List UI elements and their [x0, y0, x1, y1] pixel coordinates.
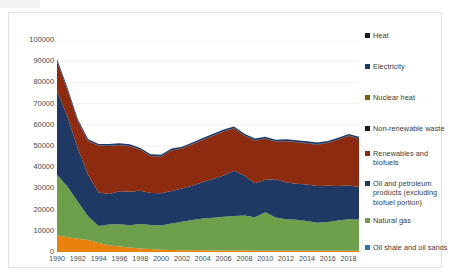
y-tick-label: 30000: [12, 184, 54, 192]
legend-label: Electricity: [373, 62, 405, 71]
y-tick-label: 10000: [12, 227, 54, 235]
y-tick-label: 90000: [12, 57, 54, 65]
x-tick-label: 2004: [195, 254, 211, 263]
x-tick-label: 2016: [320, 254, 336, 263]
y-tick-label: 100000: [12, 36, 54, 44]
chart-legend: HeatElectricityNuclear heatNon-renewable…: [365, 31, 450, 280]
x-tick-label: 2010: [257, 254, 273, 263]
chart-frame: 0100002000030000400005000060000700008000…: [8, 12, 442, 268]
legend-label: Natural gas: [373, 216, 411, 225]
legend-swatch-icon: [365, 218, 370, 223]
legend-label: Non-renewable waste: [373, 124, 445, 133]
y-tick-label: 80000: [12, 78, 54, 86]
legend-item[interactable]: Natural gas: [365, 216, 450, 225]
legend-label: Heat: [373, 31, 389, 40]
y-tick-label: 50000: [12, 142, 54, 150]
x-tick-label: 2006: [216, 254, 232, 263]
x-tick-label: 2002: [174, 254, 190, 263]
area-series: [57, 62, 359, 194]
legend-item[interactable]: Oil shale and oil sands: [365, 243, 450, 252]
x-tick-label: 2008: [236, 254, 252, 263]
legend-item[interactable]: Non-renewable waste: [365, 124, 450, 133]
legend-swatch-icon: [365, 151, 370, 156]
legend-label: Renewables and biofuels: [373, 149, 450, 168]
legend-item[interactable]: Oil and petroleum products (excluding bi…: [365, 179, 450, 207]
legend-item[interactable]: Renewables and biofuels: [365, 149, 450, 168]
corner-artifact: [0, 0, 40, 8]
y-tick-label: 0: [12, 248, 54, 256]
legend-swatch-icon: [365, 95, 370, 100]
y-tick-label: 70000: [12, 100, 54, 108]
legend-label: Oil and petroleum products (excluding bi…: [373, 179, 450, 207]
x-tick-label: 2012: [278, 254, 294, 263]
y-axis: 0100002000030000400005000060000700008000…: [9, 40, 54, 252]
legend-item[interactable]: Electricity: [365, 62, 450, 71]
legend-swatch-icon: [365, 64, 370, 69]
x-axis: 1990199219941996199820002002200420062008…: [57, 254, 359, 268]
legend-swatch-icon: [365, 126, 370, 131]
legend-swatch-icon: [365, 33, 370, 38]
legend-item[interactable]: Heat: [365, 31, 450, 40]
area-series-group: [57, 59, 359, 252]
legend-item[interactable]: Nuclear heat: [365, 93, 450, 102]
x-tick-label: 2014: [299, 254, 315, 263]
legend-label: Oil shale and oil sands: [373, 243, 448, 252]
x-tick-label: 2018: [341, 254, 357, 263]
plot-area: [57, 40, 359, 252]
chart-screenshot: 0100002000030000400005000060000700008000…: [0, 0, 450, 280]
legend-label: Nuclear heat: [373, 93, 415, 102]
stacked-area-plot: [57, 40, 359, 252]
x-tick-label: 1990: [49, 254, 65, 263]
x-tick-label: 1998: [132, 254, 148, 263]
x-tick-label: 1992: [70, 254, 86, 263]
x-tick-label: 1994: [91, 254, 107, 263]
y-tick-label: 60000: [12, 121, 54, 129]
x-tick-label: 1996: [111, 254, 127, 263]
y-tick-label: 40000: [12, 163, 54, 171]
x-tick-label: 2000: [153, 254, 169, 263]
legend-swatch-icon: [365, 245, 370, 250]
y-tick-label: 20000: [12, 206, 54, 214]
legend-swatch-icon: [365, 181, 370, 186]
